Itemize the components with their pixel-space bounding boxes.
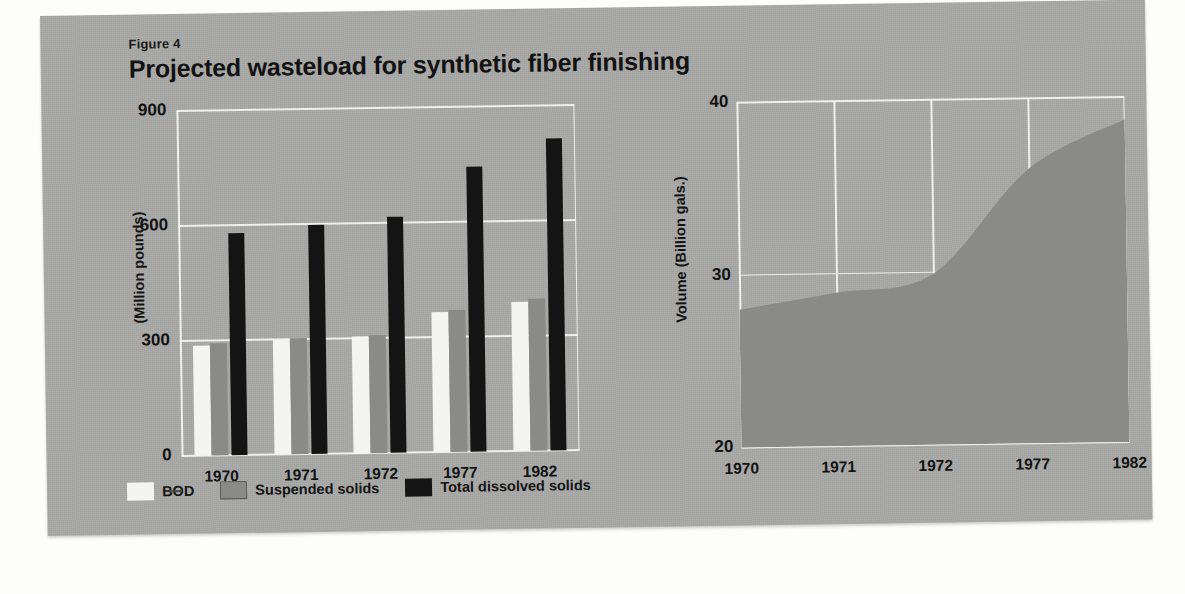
legend-item-bod: BOD (127, 482, 194, 501)
bar-chart-x-ticks: 19701971197219771982 (111, 93, 601, 100)
legend-item-total-dissolved-solids: Total dissolved solids (405, 476, 591, 497)
wasteload-bar-chart: (Million pounds) 0300600900 197019711972… (111, 93, 607, 530)
legend-item-suspended-solids: Suspended solids (220, 479, 379, 499)
area-chart-y-tick-40: 40 (676, 92, 728, 113)
bar-group-1977 (415, 106, 500, 452)
bar-suspended-1977 (449, 310, 468, 452)
bar-bod-1971 (273, 339, 292, 454)
page-title: Projected wasteload for synthetic fiber … (129, 46, 691, 83)
bar-dissolved-1972 (388, 217, 407, 453)
bar-bod-1982 (511, 301, 530, 451)
area-chart-x-tick-1977: 1977 (993, 455, 1073, 474)
bar-bod-1970 (193, 345, 212, 456)
bar-suspended-1971 (290, 338, 309, 454)
bar-group-1970 (176, 110, 261, 456)
area-chart-series (736, 97, 1129, 448)
bar-dissolved-1982 (546, 139, 567, 451)
scanned-page: Figure 4 Projected wasteload for synthet… (0, 0, 1185, 594)
area-chart-plot-area (736, 97, 1129, 448)
figure-panel: Figure 4 Projected wasteload for synthet… (40, 0, 1153, 536)
bar-chart-plot-area (176, 105, 579, 456)
bar-bod-1977 (432, 312, 451, 452)
bar-dissolved-1970 (229, 233, 248, 456)
bar-chart-y-tick-600: 600 (113, 215, 168, 236)
bar-chart-y-tick-900: 900 (111, 100, 166, 121)
area-chart-y-ticks: 203040 (641, 85, 1141, 92)
area-chart-x-tick-1982: 1982 (1090, 453, 1170, 472)
volume-area-chart: Volume (Billion gals.) 203040 1970197119… (641, 85, 1147, 522)
volume-area-path (737, 119, 1130, 447)
bar-suspended-1970 (210, 343, 229, 455)
legend-label-suspended: Suspended solids (255, 480, 379, 498)
bar-group-1971 (256, 109, 341, 455)
bar-chart-y-tick-300: 300 (115, 330, 170, 351)
bar-bod-1972 (352, 337, 371, 454)
bar-group-1972 (336, 107, 421, 453)
bar-chart-bar-groups (176, 105, 574, 111)
bar-dissolved-1971 (308, 225, 327, 454)
area-chart-y-tick-30: 30 (679, 264, 731, 285)
figure-label: Figure 4 (128, 36, 180, 52)
area-chart-y-axis-label: Volume (Billion gals.) (671, 154, 690, 344)
bar-chart-y-tick-0: 0 (116, 445, 171, 466)
bar-dissolved-1977 (466, 167, 486, 452)
bar-suspended-1972 (369, 335, 388, 453)
legend-swatch-dissolved (405, 478, 432, 496)
legend-swatch-bod (127, 482, 154, 500)
bar-group-1982 (495, 105, 580, 451)
area-chart-x-tick-1970: 1970 (702, 459, 782, 478)
bar-chart-y-ticks: 0300600900 (111, 93, 601, 100)
legend-swatch-suspended (220, 481, 247, 499)
legend-dash-mark (169, 490, 182, 492)
bar-suspended-1982 (528, 299, 547, 451)
legend-label-dissolved: Total dissolved solids (440, 477, 591, 495)
area-chart-x-tick-1971: 1971 (799, 458, 879, 477)
area-chart-y-tick-20: 20 (681, 437, 733, 458)
area-chart-x-tick-1972: 1972 (896, 456, 976, 475)
